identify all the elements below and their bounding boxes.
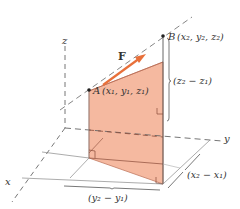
diagram-canvas: z x y F A (x₁, y₁, z₁) B (x₂, y₂, z₂) (z…: [0, 0, 240, 209]
z-axis-label: z: [61, 35, 68, 46]
x-axis: [12, 128, 65, 202]
point-a-coords: (x₁, y₁, z₁): [102, 85, 149, 96]
floor-line-5: [163, 164, 180, 168]
x-axis-label: x: [5, 176, 11, 187]
point-a-name: A: [92, 85, 100, 96]
point-b-name: B: [167, 31, 175, 42]
dx-label: (x₂ − x₁): [187, 169, 227, 180]
floor-line-1: [42, 152, 89, 158]
dz-label: (z₂ − z₁): [173, 75, 212, 86]
dz-bracket: [167, 38, 171, 121]
floor-line-3: [70, 158, 89, 178]
floor-line-2: [22, 178, 163, 184]
point-b-coords: (x₂, y₂, z₂): [177, 31, 224, 42]
point-b-dot: [161, 34, 165, 38]
force-label: F: [118, 50, 126, 63]
y-axis-label: y: [223, 133, 230, 144]
point-a-dot: [87, 88, 91, 92]
force-vector-diagram: z x y F A (x₁, y₁, z₁) B (x₂, y₂, z₂) (z…: [0, 0, 240, 209]
dy-bracket: [64, 186, 160, 190]
shaded-plane: [89, 62, 163, 184]
dy-label: (y₂ − y₁): [88, 192, 128, 203]
